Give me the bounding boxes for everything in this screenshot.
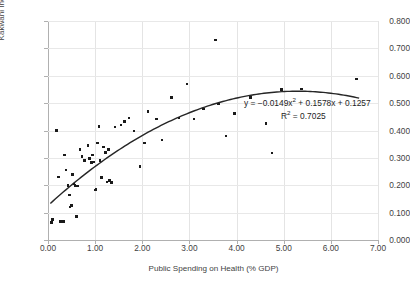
trendline-equation-label: y = −0.0149x2 + 0.1578x + 0.1257 (244, 96, 371, 108)
data-point (225, 135, 228, 138)
y-axis-tick-label: 0.500 (368, 99, 410, 107)
data-point (51, 218, 54, 221)
y-axis-tick-mark (44, 103, 48, 104)
data-point (178, 117, 181, 120)
data-point (114, 126, 117, 129)
data-point (233, 112, 236, 115)
y-axis-tick-label: 0.300 (368, 154, 410, 162)
data-point (83, 159, 86, 162)
x-axis-line (48, 240, 379, 241)
data-point (68, 194, 71, 197)
x-axis-tick-label: 1.00 (75, 244, 115, 253)
data-point (139, 165, 142, 168)
data-point (92, 161, 95, 164)
data-point (300, 88, 303, 91)
y-axis-tick-label: 0.600 (368, 72, 410, 80)
data-point (123, 120, 126, 123)
y-axis-tick-mark (44, 185, 48, 186)
y-axis-tick-mark (44, 213, 48, 214)
data-point (133, 130, 136, 133)
trendline (48, 21, 378, 240)
data-point (280, 88, 283, 91)
data-point (147, 110, 150, 113)
x-axis-tick-label: 7.00 (358, 244, 398, 253)
data-point (143, 142, 146, 145)
r-squared-label: R2 = 0.7025 (281, 109, 326, 121)
data-point (265, 122, 268, 125)
data-point (170, 96, 173, 99)
y-axis-tick-mark (44, 76, 48, 77)
data-point (96, 142, 99, 145)
data-point (88, 157, 91, 160)
data-point (50, 221, 53, 224)
x-axis-tick-label: 3.00 (169, 244, 209, 253)
data-point (99, 159, 102, 162)
data-point (98, 125, 101, 128)
data-point (110, 181, 113, 184)
y-axis-tick-label: 0.200 (368, 181, 410, 189)
data-point (70, 204, 73, 207)
data-point (217, 103, 220, 106)
data-point (57, 176, 60, 179)
data-point (128, 117, 131, 120)
data-point (355, 78, 358, 81)
data-point (95, 188, 98, 191)
data-point (87, 144, 90, 147)
data-point (79, 148, 82, 151)
data-point (120, 124, 123, 127)
data-point (62, 220, 65, 223)
x-axis-title: Public Spending on Health (% GDP) (48, 264, 379, 273)
data-point (76, 185, 79, 188)
x-axis-tick-label: 4.00 (217, 244, 257, 253)
y-axis-tick-mark (44, 158, 48, 159)
y-axis-tick-mark (44, 48, 48, 49)
y-axis-tick-mark (44, 131, 48, 132)
data-point (202, 108, 205, 111)
data-point (55, 129, 58, 132)
data-point (91, 154, 94, 157)
data-point (67, 184, 70, 187)
data-point (65, 169, 68, 172)
data-point (155, 118, 158, 121)
data-point (71, 173, 74, 176)
x-axis-tick-label: 0.00 (28, 244, 68, 253)
y-axis-tick-label: 0.800 (368, 17, 410, 25)
x-axis-tick-label: 6.00 (311, 244, 351, 253)
y-axis-tick-label: 0.700 (368, 44, 410, 52)
scatter-chart: 0.0000.1000.2000.3000.4000.5000.6000.700… (0, 0, 410, 284)
y-axis-title: Kakwani Index of Life Expectancy (0, 0, 6, 50)
data-point (214, 39, 217, 42)
data-point (104, 151, 107, 154)
data-point (271, 152, 274, 155)
data-point (63, 154, 66, 157)
data-point (75, 215, 78, 218)
plot-area (48, 21, 378, 240)
data-point (100, 176, 103, 179)
y-axis-tick-label: 0.100 (368, 209, 410, 217)
y-axis-tick-mark (44, 21, 48, 22)
data-point (193, 118, 196, 121)
data-point (107, 148, 110, 151)
x-axis-tick-label: 5.00 (264, 244, 304, 253)
x-axis-tick-label: 2.00 (122, 244, 162, 253)
data-point (161, 139, 164, 142)
y-axis-tick-label: 0.400 (368, 127, 410, 135)
data-point (81, 155, 84, 158)
data-point (186, 83, 189, 86)
data-point (102, 146, 105, 149)
